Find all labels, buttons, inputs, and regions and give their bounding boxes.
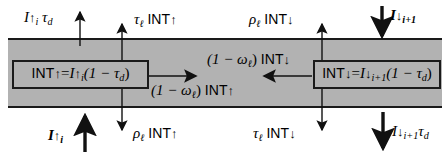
- layer-index-bd: i+1: [404, 130, 419, 141]
- layer-index-bl: i: [60, 134, 63, 145]
- up-arrow-glyph-br: ↑: [171, 126, 178, 141]
- tau-sub-bd: d: [424, 130, 429, 141]
- int-label-td: INT: [147, 11, 170, 27]
- layer-index-ti: i+1: [402, 14, 416, 25]
- label-mid-scatter-left: (1 − ωℓ) INT↓: [207, 52, 290, 69]
- radiative-transfer-diagram: INT↑=I↑i(1 − τd) INT↓=I↓i+1(1 − τd) I↑i …: [0, 0, 444, 158]
- upward-intensity-equation-text: INT↑=I↑i(1 − τd): [32, 66, 130, 83]
- int-label-bt: INT: [266, 125, 289, 141]
- equals-right: =: [351, 65, 359, 81]
- int-label-ml: INT: [205, 82, 228, 98]
- layer-index-tl: i: [36, 16, 39, 27]
- label-top-left-direct: I↑i τd: [24, 10, 53, 27]
- rho-sub-tr: ℓ: [256, 18, 260, 29]
- label-mid-scatter-right: (1 − ωℓ) INT↑: [151, 83, 234, 100]
- downward-intensity-equation-text: INT↓=I↓i+1(1 − τd): [322, 66, 432, 83]
- label-top-reflected: ρℓ INT↓: [249, 12, 294, 29]
- down-arrow-glyph-bt: ↓: [289, 126, 296, 141]
- tau-sub-bt: ℓ: [258, 132, 262, 143]
- omega-expr-ml: (1 − ω: [151, 82, 192, 98]
- downward-intensity-equation-box: INT↓=I↓i+1(1 − τd): [313, 60, 441, 89]
- int-label-left: INT: [32, 65, 55, 81]
- omega-close-mr: ): [252, 51, 257, 67]
- label-top-incident: I↓i+1: [390, 8, 416, 25]
- int-label-mr: INT: [261, 51, 284, 67]
- rho-sub-br: ℓ: [140, 132, 144, 143]
- label-bottom-incident: I↑i: [48, 128, 63, 145]
- tau-sub-td: ℓ: [139, 18, 143, 29]
- label-bottom-direct: I↓i+1τd: [392, 124, 429, 141]
- omega-expr-mr: (1 − ω: [207, 51, 248, 67]
- tau-sub-tl: d: [47, 16, 52, 27]
- int-label-br: INT: [148, 125, 171, 141]
- omega-close-ml: ): [196, 82, 201, 98]
- up-arrow-glyph-td: ↑: [170, 12, 177, 27]
- down-arrow-glyph-mr: ↓: [284, 52, 291, 67]
- layer-index-right: i+1: [371, 72, 386, 83]
- direct-transmittance-left: (1 − τ: [84, 65, 120, 81]
- label-top-diffuse-up: τℓ INT↑: [134, 12, 177, 29]
- direct-transmittance-right: (1 − τ: [386, 65, 422, 81]
- upward-intensity-equation-box: INT↑=I↑i(1 − τd): [12, 60, 149, 89]
- label-bottom-transmitted: τℓ INT↓: [253, 126, 296, 143]
- int-label-tr: INT: [264, 11, 287, 27]
- int-label-right: INT: [322, 65, 345, 81]
- up-arrow-glyph-ml: ↑: [228, 83, 235, 98]
- label-bottom-reflected: ρℓ INT↑: [133, 126, 178, 143]
- down-arrow-glyph-tr: ↓: [287, 12, 294, 27]
- close-paren-left: ): [124, 65, 129, 81]
- close-paren-right: ): [427, 65, 432, 81]
